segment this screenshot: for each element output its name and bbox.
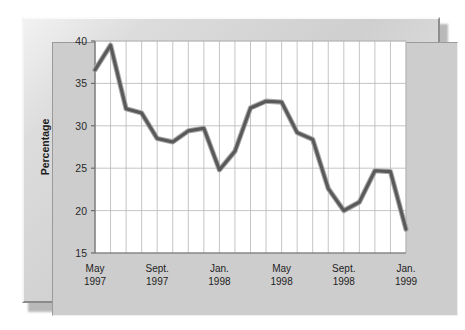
y-tick-label: 15 xyxy=(75,247,87,259)
x-tick-label-year: 1998 xyxy=(208,276,231,287)
x-tick-label-year: 1997 xyxy=(84,276,107,287)
y-axis-title: Percentage xyxy=(39,119,51,176)
chart-area: 152025303540PercentageMay1997Sept.1997Ja… xyxy=(29,24,433,296)
x-tick-label-year: 1999 xyxy=(395,276,418,287)
y-tick-label: 25 xyxy=(75,162,87,174)
y-tick-label: 30 xyxy=(75,120,87,132)
y-tick-label: 35 xyxy=(75,77,87,89)
y-tick-label: 20 xyxy=(75,205,87,217)
x-tick-label-month: May xyxy=(272,263,291,274)
chart-screenshot: 152025303540PercentageMay1997Sept.1997Ja… xyxy=(0,0,465,330)
x-tick-label-month: Jan. xyxy=(397,263,416,274)
line-chart: 152025303540PercentageMay1997Sept.1997Ja… xyxy=(29,24,433,296)
x-tick-label-year: 1998 xyxy=(270,276,293,287)
x-tick-label-month: May xyxy=(86,263,105,274)
x-tick-label-month: Jan. xyxy=(210,263,229,274)
x-tick-label-year: 1997 xyxy=(146,276,169,287)
x-tick-label-year: 1998 xyxy=(333,276,356,287)
x-tick-label-month: Sept. xyxy=(146,263,169,274)
x-tick-label-month: Sept. xyxy=(332,263,355,274)
y-tick-label: 40 xyxy=(75,35,87,47)
